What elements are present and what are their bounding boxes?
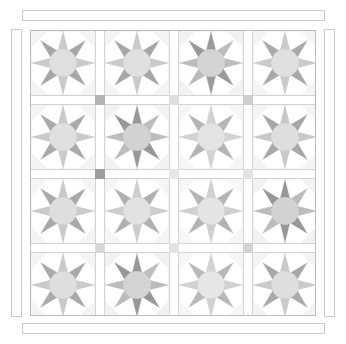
star-block-r2c2 <box>105 105 169 169</box>
page-title: Eight-Pointed Star Sampler Quilt Layout … <box>0 21 1 22</box>
left-border-strip <box>11 29 22 317</box>
top-border-strip <box>22 10 325 21</box>
cornerstone-r1c2 <box>169 95 179 105</box>
cornerstone-r2c3 <box>243 169 253 179</box>
quilt-diagram: Eight-Pointed Star Sampler Quilt Layout … <box>0 0 346 344</box>
star-block-r2c4 <box>253 105 316 169</box>
star-block-r4c4 <box>253 253 316 316</box>
cornerstone-r3c1 <box>95 243 105 253</box>
star-block-r1c3 <box>179 31 243 95</box>
star-block-r1c2 <box>105 31 169 95</box>
star-block-r2c3 <box>179 105 243 169</box>
cornerstone-r1c3 <box>243 95 253 105</box>
cornerstone-r2c1 <box>95 169 105 179</box>
star-block-r1c1 <box>31 31 95 95</box>
cornerstone-r1c1 <box>95 95 105 105</box>
star-block-r4c1 <box>31 253 95 316</box>
star-block-r3c1 <box>31 179 95 243</box>
star-block-r3c2 <box>105 179 169 243</box>
star-block-r3c4 <box>253 179 316 243</box>
cornerstone-r2c2 <box>169 169 179 179</box>
star-block-r1c4 <box>253 31 316 95</box>
star-block-r4c3 <box>179 253 243 316</box>
star-block-r2c1 <box>31 105 95 169</box>
right-border-strip <box>324 29 335 317</box>
star-block-r3c3 <box>179 179 243 243</box>
bottom-border-strip <box>22 323 325 334</box>
star-block-r4c2 <box>105 253 169 316</box>
quilt-body <box>30 30 316 316</box>
cornerstone-r3c2 <box>169 243 179 253</box>
cornerstone-r3c3 <box>243 243 253 253</box>
